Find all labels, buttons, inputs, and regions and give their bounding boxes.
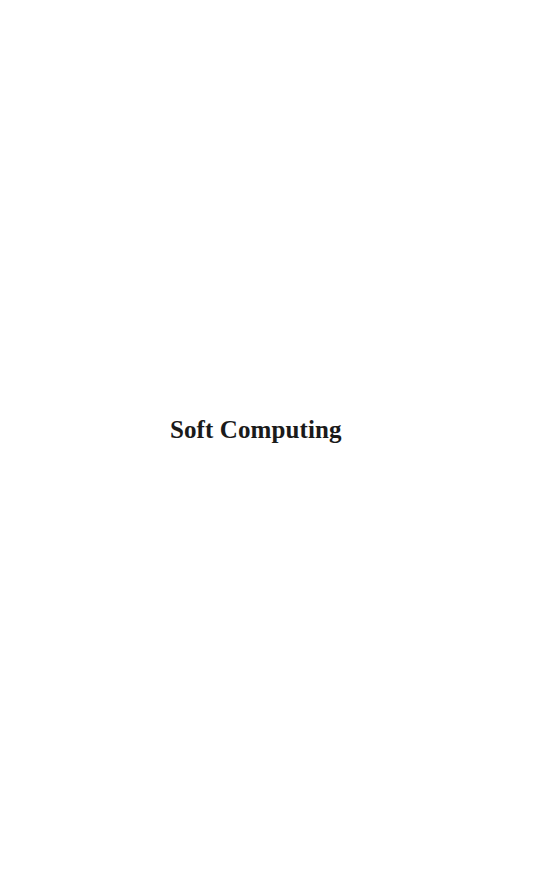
- page-title: Soft Computing: [170, 410, 342, 450]
- document-page: Soft Computing: [0, 0, 534, 877]
